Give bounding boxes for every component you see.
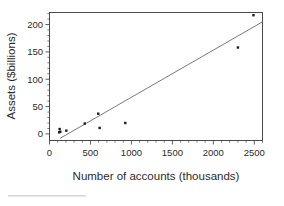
y-tick-label: 50 bbox=[32, 101, 43, 112]
data-point bbox=[84, 122, 86, 124]
y-tick-label: 150 bbox=[27, 46, 43, 57]
data-point bbox=[98, 127, 100, 129]
y-axis-label: Assets ($billions) bbox=[5, 32, 17, 119]
x-tick-label: 2000 bbox=[203, 147, 224, 158]
data-point bbox=[252, 14, 254, 16]
scan-artifact bbox=[8, 195, 86, 197]
y-tick-labels: 050100150200 bbox=[27, 19, 43, 139]
data-points bbox=[58, 14, 255, 133]
plot-frame bbox=[50, 13, 263, 141]
regression-line bbox=[60, 22, 262, 139]
x-axis-label: Number of accounts (thousands) bbox=[73, 170, 240, 182]
data-point bbox=[124, 122, 126, 124]
y-tick-label: 200 bbox=[27, 19, 43, 30]
x-tick-label: 0 bbox=[47, 147, 52, 158]
y-tick-label: 0 bbox=[38, 128, 43, 139]
data-point bbox=[97, 112, 99, 114]
data-point bbox=[58, 128, 60, 130]
y-axis: 050100150200 Assets ($billions) bbox=[5, 14, 50, 140]
data-point bbox=[237, 46, 239, 48]
chart-canvas: 050100150200 Assets ($billions) 05001000… bbox=[0, 0, 284, 206]
scatter-plot-figure: 050100150200 Assets ($billions) 05001000… bbox=[0, 0, 284, 206]
x-axis: 05001000150020002500 Number of accounts … bbox=[47, 141, 265, 183]
y-tick-label: 100 bbox=[27, 74, 43, 85]
data-point bbox=[59, 131, 61, 133]
x-tick-labels: 05001000150020002500 bbox=[47, 147, 265, 158]
x-tick-label: 2500 bbox=[244, 147, 265, 158]
x-tick-label: 500 bbox=[83, 147, 99, 158]
data-point bbox=[65, 129, 67, 131]
x-tick-label: 1500 bbox=[162, 147, 183, 158]
x-tick-label: 1000 bbox=[121, 147, 142, 158]
x-major-ticks bbox=[50, 141, 255, 145]
